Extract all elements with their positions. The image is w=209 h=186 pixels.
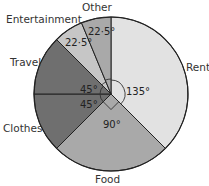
label-food: Food (95, 173, 120, 185)
label-clothes: Clothes (3, 122, 42, 134)
angle-entertainment: 22·5° (65, 37, 92, 48)
pie-chart: Rent Food Clothes Travel Entertainment O… (0, 0, 209, 186)
pie-slices (34, 17, 188, 171)
angle-other: 22·5° (88, 26, 115, 37)
angle-travel: 45° (80, 84, 98, 95)
label-rent: Rent (186, 61, 209, 73)
angle-clothes: 45° (80, 99, 98, 110)
angle-food: 90° (103, 119, 121, 130)
label-other: Other (82, 1, 112, 13)
angle-rent: 135° (126, 86, 150, 97)
label-entertainment: Entertainment (6, 13, 82, 25)
label-travel: Travel (9, 56, 41, 68)
